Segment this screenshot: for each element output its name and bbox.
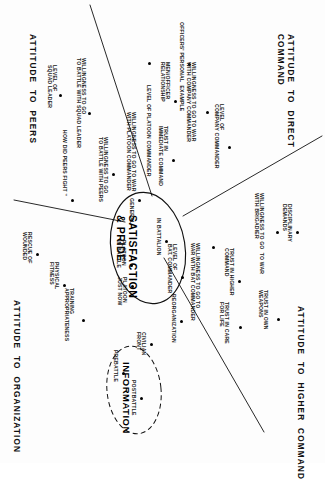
node-label-disciplinary-demands: DISCIPLINARY DEMANDS (281, 204, 292, 242)
node-label-level-of-company-commander: LEVEL OF COMPANY COMMANDER (213, 104, 224, 169)
node-label-willingness-war-platoon-commander: WILLINGNESS TO GO TO WAR WITH PLATOON CO… (125, 112, 136, 192)
node-label-willingness-battle-squad-leader: WILLINGNESS TO GO TO BATTLE WITH SQUAD L… (75, 58, 86, 148)
divider-line-peers-org (14, 200, 125, 222)
node-label-trust-in-care-for-life: TRUST IN CARE FOR LIFE (218, 302, 229, 344)
node-label-prebattle: PREBATTLE (113, 350, 118, 382)
node-label-willingness-war-bat-commander: WILLINGNESS TO GO TO WAR WITH BAT COMMAN… (189, 243, 200, 321)
axis-label-attitude-to-peers: ATTITUDE TO PEERS (28, 34, 38, 144)
node-label-reorganization: REORGANIZATION (171, 294, 176, 343)
axis-label-attitude-to-direct-command: ATTITUDE TO DIRECT COMMAND (275, 34, 296, 148)
node-label-trust-in-own-weapons: TRUST IN OWN WEAPONS (257, 290, 268, 330)
node-label-willingness-battle-peers: WILLINGNESS TO GO TO BATTLE WITH PEERS (97, 137, 108, 202)
axis-label-attitude-to-higher-command: ATTITUDE TO HIGHER COMMAND (296, 306, 306, 480)
node-label-trust-in-immediate-command: TRUST IN IMMEDIATE COMMAND (157, 126, 168, 186)
node-label-how-did-peers-fight: HOW DID PEERS FIGHT " (62, 130, 67, 196)
node-label-postbattle: POSTBATTLE (131, 380, 136, 416)
node-label-officers-personal-example: OFFICERS' PERSONAL EXAMPLE (179, 22, 184, 111)
node-label-in-battalion: IN BATTALION (156, 218, 161, 256)
axis-label-attitude-to-organization: ATTITUDE TO ORGANIZATION (12, 300, 22, 453)
node-label-level-of-bat-commander: LEVEL OF BAT. COMMANDER (166, 244, 177, 293)
node-label-willingness-war-company-commander: WILLINGNESS TO GO TO WAR WITH COMPANY CO… (185, 62, 196, 142)
node-label-level-of-squad-leader: LEVEL OF SQUAD LEADER (46, 65, 57, 108)
node-label-physical-fitness: PHYSICAL FITNESS (48, 262, 59, 289)
node-label-training-appropriateness: TRAINING APPROPRIATENESS (63, 288, 74, 341)
node-label-civilian-front: CIVILIAN FRONT (135, 332, 146, 355)
node-label-rescue-of-wounded: RESCUE OF WOUNDED (21, 232, 32, 264)
node-label-men-officer-relationship: MEN/OFFICER RELATIONSHIP (159, 62, 170, 102)
node-label-platoon-just-now: PLATOON JUST NOW (116, 277, 127, 305)
node-label-level-of-platoon-commander: LEVEL OF PLATOON COMMANDER (146, 85, 151, 177)
node-label-platoon-in-battle: PLATOON IN BATTLE (115, 240, 126, 268)
node-label-willingness-war-brigadier: WILLINGNESS TO GO TO WAR WITH BRIGADIER (253, 193, 264, 274)
node-label-trust-in-higher-command: TRUST IN HIGHER COMMAND (223, 248, 234, 296)
node-label-general: GENERAL (129, 198, 134, 224)
